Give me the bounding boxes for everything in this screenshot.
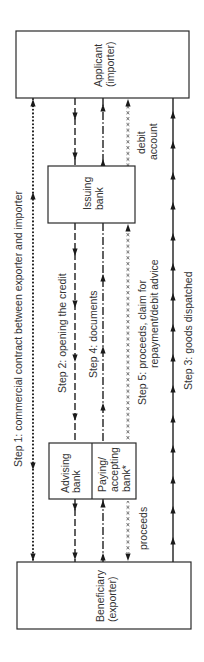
arrow-down-icon (125, 554, 130, 562)
issuing-bank-label: Issuing (81, 177, 93, 210)
arrow-down-icon (72, 355, 77, 363)
arrow-up-icon (170, 445, 175, 453)
arrow-up-icon (100, 104, 105, 112)
step-3-label: Step 3: goods dispatched (182, 271, 194, 390)
step-3-connector (170, 98, 175, 562)
step-4-label: Step 4: documents (87, 290, 99, 378)
applicant-sublabel: (importer) (104, 41, 116, 87)
arrow-up-icon (100, 346, 105, 354)
arrow-up-icon (170, 354, 175, 362)
arrow-up-icon (100, 159, 105, 167)
issuing-bank-node: Issuing bank (48, 166, 135, 223)
arrow-up-icon (170, 415, 175, 423)
step-5-label-line2: repayment/debit advice (148, 259, 160, 368)
step-2-label: Step 2: opening the credit (56, 273, 68, 393)
arrow-up-icon (170, 172, 175, 180)
arrow-up-icon (170, 476, 175, 484)
paying-bank-label-2: accepting (108, 447, 120, 492)
arrow-up-icon (30, 192, 35, 200)
arrow-up-icon (170, 324, 175, 332)
arrow-down-icon (30, 463, 35, 471)
arrow-up-icon (170, 233, 175, 241)
step-1-label: Step 1: commercial contract between expo… (12, 190, 24, 467)
step-1-connector (30, 99, 35, 561)
arrow-up-icon (170, 537, 175, 545)
debit-annotation: debit (135, 131, 147, 154)
beneficiary-sublabel: (exporter) (106, 576, 118, 622)
arrow-down-icon (30, 554, 35, 562)
arrow-up-icon (30, 99, 35, 107)
proceeds-annotation: proceeds (137, 507, 149, 550)
paying-bank-label: Paying/ (96, 457, 108, 492)
arrow-down-icon (72, 153, 77, 161)
arrow-up-icon (170, 111, 175, 119)
advising-bank-sublabel: bank (70, 469, 82, 493)
arrow-up-icon (170, 202, 175, 210)
arrow-down-icon (72, 504, 77, 512)
applicant-label: Applicant (92, 44, 104, 87)
account-annotation: account (147, 123, 159, 160)
paying-bank-label-3: bank* (120, 465, 132, 492)
step-5-label: Step 5: proceeds, claim for (136, 280, 148, 405)
arrow-up-icon (125, 99, 130, 107)
arrow-down-icon (72, 553, 77, 561)
arrow-up-icon (170, 293, 175, 301)
arrow-up-icon (170, 506, 175, 514)
arrow-down-icon (72, 113, 77, 121)
arrow-up-icon (170, 263, 175, 271)
arrow-up-icon (170, 385, 175, 393)
applicant-node: Applicant (importer) (16, 31, 189, 98)
beneficiary-node: Beneficiary (exporter) (17, 562, 191, 629)
issuing-bank-sublabel: bank (93, 186, 105, 210)
arrow-up-icon (170, 141, 175, 149)
arrow-up-icon (100, 553, 105, 561)
arrow-down-icon (72, 249, 77, 257)
letter-of-credit-diagram: Applicant (importer) Issuing bank Advisi… (0, 0, 204, 662)
arrow-up-icon (100, 500, 105, 508)
arrow-up-icon (100, 274, 105, 282)
arrow-down-icon (72, 301, 77, 309)
arrow-up-icon (100, 403, 105, 411)
beneficiary-label: Beneficiary (94, 569, 106, 622)
advising-paying-bank-node: Advising bank Paying/ accepting bank* (49, 443, 136, 499)
arrow-up-icon (125, 224, 130, 232)
arrow-down-icon (72, 414, 77, 422)
